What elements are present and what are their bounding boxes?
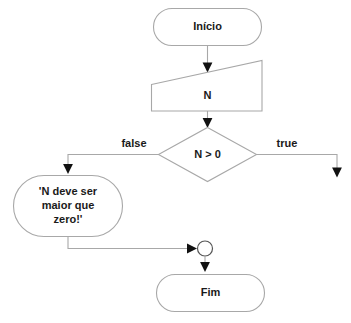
arrow-head-into-end [200,262,210,272]
arrow-head-into-merge [187,244,197,254]
edge-message-to-merge [68,237,197,254]
end-label: Fim [201,286,221,298]
edge-true-branch [257,155,342,178]
input-n-label: N [204,89,212,101]
node-decision[interactable]: N > 0 [159,128,257,182]
message-label-line-2: maior que [42,199,95,211]
node-message[interactable]: 'N deve ser maior que zero!' [14,176,123,237]
edge-false-branch-line [68,155,159,168]
message-label-line-3: zero!' [54,213,83,225]
node-start[interactable]: Início [154,9,262,46]
arrow-head-into-input [203,63,213,73]
edge-merge-to-end [200,256,210,272]
edge-start-to-input [203,46,213,73]
edge-false-branch [63,155,158,175]
message-label-line-1: 'N deve ser [39,185,98,197]
start-label: Início [193,20,222,32]
edge-message-to-merge-line [68,237,190,249]
arrow-head-into-decision [203,118,213,128]
edge-input-to-decision [203,111,213,128]
branch-label-true: true [277,137,298,149]
node-merge-connector[interactable] [198,241,213,256]
branch-label-false: false [121,137,146,149]
arrow-head-into-message [63,164,73,174]
edge-true-branch-line [257,155,338,171]
node-end[interactable]: Fim [157,275,265,312]
decision-label: N > 0 [194,148,221,160]
flowchart-diagram: Início N N > 0 false true 'N deve ser ma… [0,0,351,323]
merge-circle-shape [198,241,213,256]
arrow-head-true-exit [332,168,342,178]
